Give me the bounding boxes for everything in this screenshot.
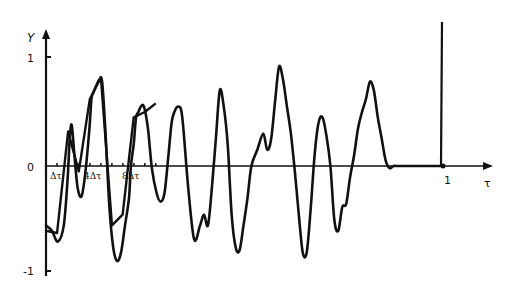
y-tick-label-0: 0 <box>27 161 34 174</box>
sampled-approximation-line <box>46 77 156 233</box>
chart: Y 1 0 -1 τ 1 Δτ 4Δτ 8Δτ <box>0 0 510 283</box>
y-tick-label-1: 1 <box>27 52 34 65</box>
continuous-signal-line <box>46 66 441 261</box>
x-axis-label: τ <box>484 177 491 190</box>
x-tick-label-1: 1 <box>444 174 451 187</box>
y-axis-label: Y <box>27 31 36 45</box>
tau-one-vertical-line <box>441 22 442 166</box>
x-tick-label-dt: Δτ <box>50 171 61 181</box>
y-tick-label-neg1: -1 <box>23 265 34 278</box>
